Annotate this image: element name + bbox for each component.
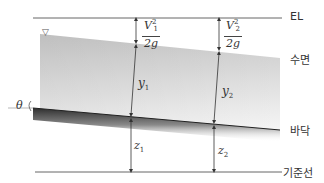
- depth-2-label: y2: [222, 84, 233, 100]
- energy-diagram: ▽ V21 2g V22 2g y1 y2 z1 z2 θ EL 수면 바닥 기…: [0, 0, 324, 183]
- water-surface-label: 수면: [290, 51, 310, 67]
- datum-label: 기준선: [283, 164, 313, 180]
- energy-line-label: EL: [290, 10, 303, 23]
- elevation-1-label: z1: [134, 139, 144, 154]
- angle-theta-label: θ: [16, 99, 23, 112]
- depth-1-label: y1: [138, 76, 149, 92]
- channel-bed-label: 바닥: [290, 122, 310, 138]
- velocity-head-2: V22 2g: [224, 16, 242, 50]
- velocity-head-1: V21 2g: [142, 16, 160, 50]
- water-surface-symbol: ▽: [42, 27, 49, 37]
- elevation-2-label: z2: [218, 144, 228, 159]
